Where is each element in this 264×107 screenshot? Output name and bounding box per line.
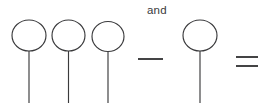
- equals-operator: [236, 57, 258, 66]
- math-expression-drawing: [0, 0, 264, 107]
- figure-canvas: and: [0, 0, 264, 107]
- circle-glyph-4: [183, 20, 217, 51]
- lollipop-2: [52, 20, 85, 103]
- lollipop-4: [183, 20, 217, 103]
- circle-glyph-3: [92, 22, 124, 52]
- circle-glyph-1: [12, 20, 46, 51]
- circle-glyph-2: [52, 20, 85, 51]
- and-label: and: [147, 4, 167, 16]
- lollipop-3: [92, 22, 124, 104]
- lollipop-1: [12, 20, 46, 103]
